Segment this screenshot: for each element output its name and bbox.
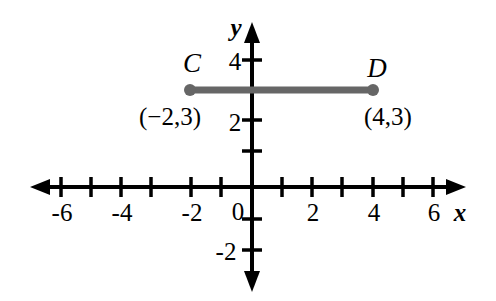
x-axis-arrow-right xyxy=(446,179,466,195)
point-c-letter: C xyxy=(183,50,201,77)
x-axis-arrow-left xyxy=(30,179,50,195)
point-c-marker xyxy=(184,84,196,96)
point-d-coordinates: (4,3) xyxy=(364,104,412,129)
point-c-coordinates: (−2,3) xyxy=(139,104,201,129)
y-tick-label-4: 4 xyxy=(229,49,242,74)
segment-cd-group xyxy=(184,84,379,96)
x-tick-label--6: -6 xyxy=(52,200,73,225)
coordinate-plane-svg xyxy=(0,0,496,301)
y-axis-group xyxy=(242,22,262,292)
x-tick-label--4: -4 xyxy=(112,200,133,225)
x-axis-label: x xyxy=(454,200,467,225)
point-d-letter: D xyxy=(367,55,387,82)
x-tick-label-2: 2 xyxy=(307,200,320,225)
x-tick-label-6: 6 xyxy=(428,200,441,225)
x-tick-label--2: -2 xyxy=(182,200,203,225)
coordinate-plane-figure: y x 0 -6 -4 -2 2 4 6 4 2 -2 C (−2,3) D (… xyxy=(0,0,496,301)
x-tick-label-4: 4 xyxy=(368,200,381,225)
y-axis-label: y xyxy=(230,15,241,40)
y-axis-arrow-down xyxy=(244,271,260,292)
x-axis-group xyxy=(30,177,466,197)
y-tick-label--2: -2 xyxy=(216,239,237,264)
origin-label: 0 xyxy=(232,199,245,224)
y-axis-arrow-up xyxy=(244,22,260,43)
y-tick-label-2: 2 xyxy=(229,110,242,135)
point-d-marker xyxy=(367,84,379,96)
